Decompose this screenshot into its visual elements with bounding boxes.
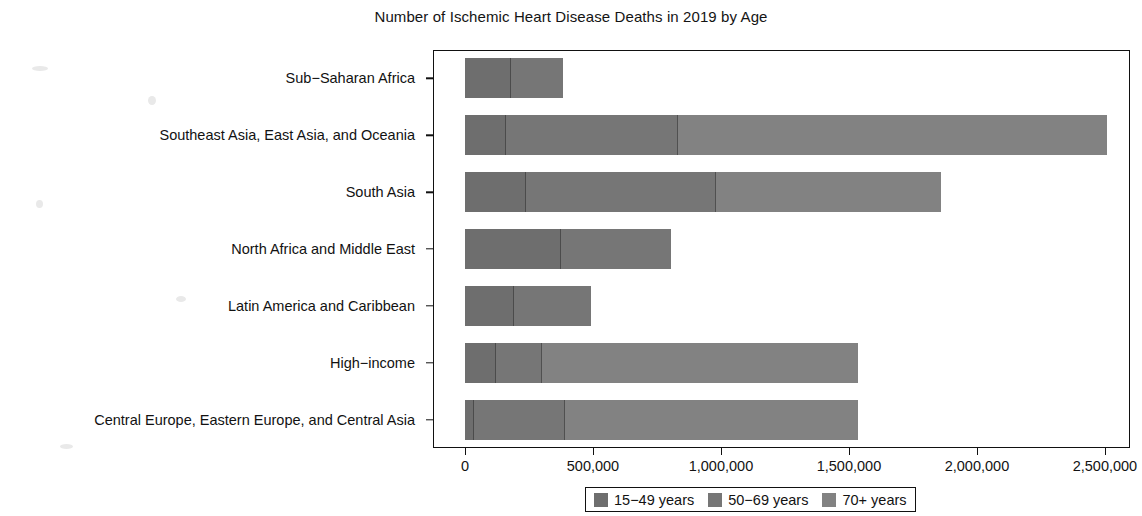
x-axis-label: 1,500,000 xyxy=(817,458,882,474)
legend-item[interactable]: 15−49 years xyxy=(594,492,694,508)
y-axis-label: Sub−Saharan Africa xyxy=(286,70,415,86)
x-axis-tick xyxy=(849,448,850,455)
x-axis-tick xyxy=(593,448,594,455)
plot-area xyxy=(433,50,1130,448)
x-axis-tick xyxy=(465,448,466,455)
chart-container: Number of Ischemic Heart Disease Deaths … xyxy=(0,0,1142,516)
bar-segment xyxy=(473,400,564,440)
bar-stack xyxy=(465,286,591,326)
chart-title: Number of Ischemic Heart Disease Deaths … xyxy=(0,8,1142,25)
legend-label: 70+ years xyxy=(842,492,906,508)
x-axis-label: 0 xyxy=(461,458,469,474)
y-axis-tick xyxy=(426,362,433,363)
y-axis-tick xyxy=(426,135,433,136)
bar-segment xyxy=(677,115,1107,155)
bar-stack xyxy=(465,115,1107,155)
bar-segment xyxy=(465,286,513,326)
y-axis-label: Southeast Asia, East Asia, and Oceania xyxy=(159,127,415,143)
bar-stack xyxy=(465,58,563,98)
legend-swatch-icon xyxy=(594,493,608,507)
y-axis-label: Central Europe, Eastern Europe, and Cent… xyxy=(94,412,415,428)
y-axis-tick xyxy=(426,78,433,79)
x-axis-tick xyxy=(977,448,978,455)
bar-segment xyxy=(465,343,495,383)
y-axis-tick xyxy=(426,419,433,420)
legend-label: 15−49 years xyxy=(614,492,694,508)
y-axis-tick xyxy=(426,248,433,249)
bar-stack xyxy=(465,343,858,383)
legend-swatch-icon xyxy=(708,493,722,507)
x-axis-tick xyxy=(1105,448,1106,455)
bar-segment xyxy=(465,229,560,269)
y-axis-label: High−income xyxy=(330,355,415,371)
bar-stack xyxy=(465,172,941,212)
legend-swatch-icon xyxy=(822,493,836,507)
bar-segment xyxy=(513,286,591,326)
bar-segment xyxy=(715,172,941,212)
y-axis-tick xyxy=(426,191,433,192)
x-axis-label: 500,000 xyxy=(567,458,619,474)
bar-segment xyxy=(505,115,677,155)
y-axis-labels: Sub−Saharan AfricaSoutheast Asia, East A… xyxy=(0,50,425,448)
x-axis-label: 1,000,000 xyxy=(689,458,754,474)
legend-item[interactable]: 70+ years xyxy=(822,492,906,508)
bar-segment xyxy=(465,400,473,440)
y-axis-tick xyxy=(426,305,433,306)
x-axis-label: 2,000,000 xyxy=(945,458,1010,474)
bar-segment xyxy=(495,343,541,383)
bar-segment xyxy=(525,172,715,212)
bar-segment xyxy=(560,229,671,269)
y-axis-label: Latin America and Caribbean xyxy=(228,298,415,314)
bar-segment xyxy=(510,58,563,98)
bar-segment xyxy=(564,400,858,440)
legend-label: 50−69 years xyxy=(728,492,808,508)
bar-segment xyxy=(465,58,510,98)
bar-segment xyxy=(541,343,858,383)
bar-segment xyxy=(465,115,505,155)
x-axis-label: 2,500,000 xyxy=(1073,458,1138,474)
bar-stack xyxy=(465,229,671,269)
y-axis-label: North Africa and Middle East xyxy=(231,241,415,257)
bar-segment xyxy=(465,172,525,212)
y-axis-label: South Asia xyxy=(346,184,415,200)
x-axis-tick xyxy=(721,448,722,455)
legend-item[interactable]: 50−69 years xyxy=(708,492,808,508)
chart-legend: 15−49 years50−69 years70+ years xyxy=(585,487,916,512)
bar-stack xyxy=(465,400,858,440)
